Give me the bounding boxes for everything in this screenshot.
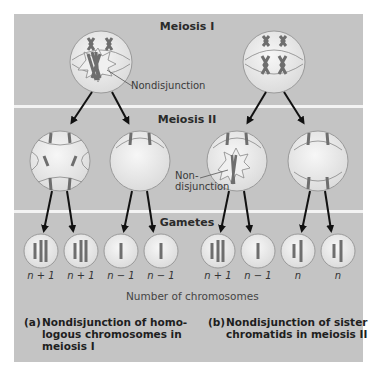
meiosis2-cell-a2: [110, 131, 170, 191]
nondisjunction-label-b-line1: Non-: [175, 170, 229, 181]
gamete-4: [144, 234, 178, 268]
gamete-6-label: n − 1: [238, 270, 278, 281]
caption-b-line1: Nondisjunction of sister: [226, 316, 373, 328]
caption-a-line1: Nondisjunction of homo-: [42, 316, 202, 328]
caption-a-prefix: (a): [24, 316, 41, 328]
meiosis1-cell-a: [70, 31, 132, 93]
gamete-2: [64, 234, 98, 268]
gamete-8-label: n: [318, 270, 358, 281]
gamete-3: [104, 234, 138, 268]
number-of-chromosomes-label: Number of chromosomes: [126, 290, 259, 302]
gamete-7: [281, 234, 315, 268]
gamete-5: [201, 234, 235, 268]
caption-a-line3: meiosis I: [42, 340, 202, 352]
gamete-1-label: n + 1: [21, 270, 61, 281]
gamete-1: [24, 234, 58, 268]
nondisjunction-label-b-line2: disjunction: [175, 181, 229, 192]
meiosis2-cell-b2: [288, 131, 348, 191]
meiosis2-cell-a1: [30, 131, 90, 191]
nondisjunction-label-a: Nondisjunction: [131, 80, 205, 91]
caption-a-line2: logous chromosomes in: [42, 328, 202, 340]
gamete-2-label: n + 1: [61, 270, 101, 281]
caption-b: (b) Nondisjunction of sister chromatids …: [208, 316, 373, 340]
gamete-3-label: n − 1: [101, 270, 141, 281]
gamete-8: [321, 234, 355, 268]
gamete-7-label: n: [278, 270, 318, 281]
gamete-4-label: n − 1: [141, 270, 181, 281]
caption-b-line2: chromatids in meiosis II: [226, 328, 373, 340]
caption-a: (a) Nondisjunction of homo- logous chrom…: [24, 316, 202, 352]
caption-b-prefix: (b): [208, 316, 225, 328]
gamete-5-label: n + 1: [198, 270, 238, 281]
stage-title-meiosis1: Meiosis I: [127, 20, 247, 33]
nondisjunction-label-b: Non- disjunction: [175, 170, 229, 192]
gamete-6: [241, 234, 275, 268]
stage-title-gametes: Gametes: [127, 216, 247, 229]
meiosis1-cell-b: [243, 31, 305, 93]
stage-title-meiosis2: Meiosis II: [127, 113, 247, 126]
